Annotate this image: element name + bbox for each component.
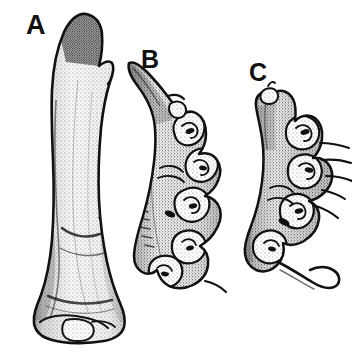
figure-label-a: A (26, 12, 46, 39)
specimen-illustration (0, 0, 352, 352)
figure-label-b: B (141, 47, 159, 72)
specimen-c-apical-knob (260, 88, 278, 104)
specimen-b-apical-knob (169, 102, 186, 118)
illustration-plate: A B C (0, 0, 352, 352)
figure-label-c: C (249, 60, 267, 85)
